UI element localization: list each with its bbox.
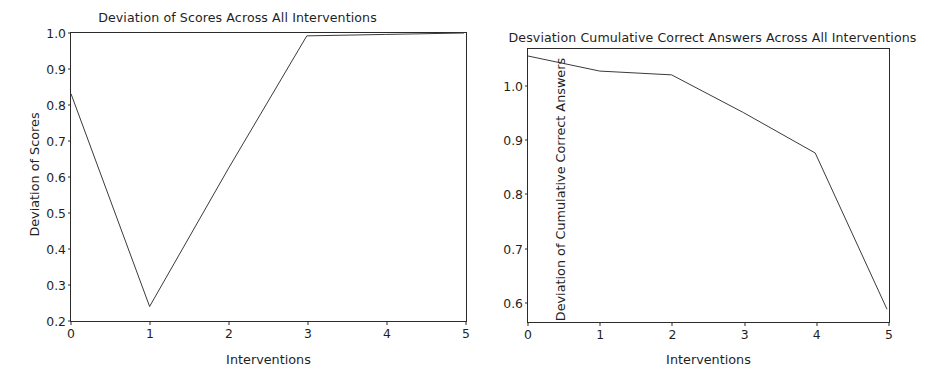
x-axis-tick-label: 0 <box>524 327 532 342</box>
x-axis-tick-label: 2 <box>668 327 676 342</box>
y-axis-tick-mark <box>68 141 72 142</box>
y-axis-tick-mark <box>525 303 529 304</box>
x-axis-tick-mark <box>528 322 529 326</box>
x-axis-tick-label: 3 <box>741 327 749 342</box>
y-axis-tick-label: 1.0 <box>46 26 66 41</box>
y-axis-tick-label: 0.3 <box>46 278 66 293</box>
y-axis-tick-mark <box>68 249 72 250</box>
x-axis-tick-label: 3 <box>304 326 312 341</box>
x-axis-tick-mark <box>387 321 388 325</box>
x-axis-tick-mark <box>672 322 673 326</box>
figure-canvas: Deviation of Scores Across All Intervent… <box>0 0 950 384</box>
y-axis-tick-mark <box>68 177 72 178</box>
x-axis-tick-mark <box>150 321 151 325</box>
x-axis-tick-mark <box>816 322 817 326</box>
plot-area: 0.20.30.40.50.60.70.80.91.0012345 <box>70 32 467 322</box>
x-axis-label: Interventions <box>70 352 467 367</box>
y-axis-tick-mark <box>525 140 529 141</box>
y-axis-tick-mark <box>68 105 72 106</box>
y-axis-tick-mark <box>68 213 72 214</box>
x-axis-tick-mark <box>466 321 467 325</box>
y-axis-tick-mark <box>68 33 72 34</box>
x-axis-tick-label: 5 <box>462 326 470 341</box>
x-axis-tick-label: 4 <box>383 326 391 341</box>
y-axis-tick-label: 0.8 <box>503 187 523 202</box>
y-axis-tick-label: 0.9 <box>46 62 66 77</box>
chart-title: Desviation Cumulative Correct Answers Ac… <box>475 30 950 45</box>
plot-area: 0.60.70.80.91.0012345 <box>527 48 890 323</box>
series-line <box>71 33 464 307</box>
y-axis-tick-mark <box>68 69 72 70</box>
x-axis-label: Interventions <box>527 352 890 367</box>
y-axis-tick-mark <box>525 194 529 195</box>
x-axis-tick-mark <box>308 321 309 325</box>
y-axis-tick-label: 0.6 <box>46 170 66 185</box>
y-axis-tick-label: 0.9 <box>503 133 523 148</box>
y-axis-tick-label: 0.7 <box>503 241 523 256</box>
x-axis-tick-mark <box>71 321 72 325</box>
y-axis-tick-label: 0.6 <box>503 296 523 311</box>
x-axis-tick-mark <box>600 322 601 326</box>
y-axis-tick-label: 0.2 <box>46 314 66 329</box>
x-axis-tick-label: 5 <box>885 327 893 342</box>
chart-panel-cumulative: Desviation Cumulative Correct Answers Ac… <box>475 0 950 384</box>
y-axis-tick-label: 0.5 <box>46 206 66 221</box>
y-axis-label: Deviation of Cumulative Correct Answers <box>553 40 568 340</box>
x-axis-tick-label: 2 <box>225 326 233 341</box>
y-axis-label: Deviation of Scores <box>27 75 42 275</box>
y-axis-tick-label: 0.4 <box>46 242 66 257</box>
line-series <box>528 49 889 322</box>
line-series <box>71 33 466 321</box>
series-line <box>528 56 887 309</box>
x-axis-tick-mark <box>889 322 890 326</box>
chart-panel-scores: Deviation of Scores Across All Intervent… <box>0 0 475 384</box>
y-axis-tick-mark <box>525 248 529 249</box>
y-axis-tick-label: 0.8 <box>46 98 66 113</box>
x-axis-tick-label: 4 <box>813 327 821 342</box>
y-axis-tick-label: 1.0 <box>503 78 523 93</box>
x-axis-tick-mark <box>229 321 230 325</box>
x-axis-tick-mark <box>744 322 745 326</box>
x-axis-tick-label: 1 <box>146 326 154 341</box>
y-axis-tick-mark <box>68 285 72 286</box>
chart-title: Deviation of Scores Across All Intervent… <box>0 10 475 25</box>
y-axis-tick-mark <box>525 85 529 86</box>
y-axis-tick-label: 0.7 <box>46 134 66 149</box>
x-axis-tick-label: 0 <box>67 326 75 341</box>
x-axis-tick-label: 1 <box>596 327 604 342</box>
